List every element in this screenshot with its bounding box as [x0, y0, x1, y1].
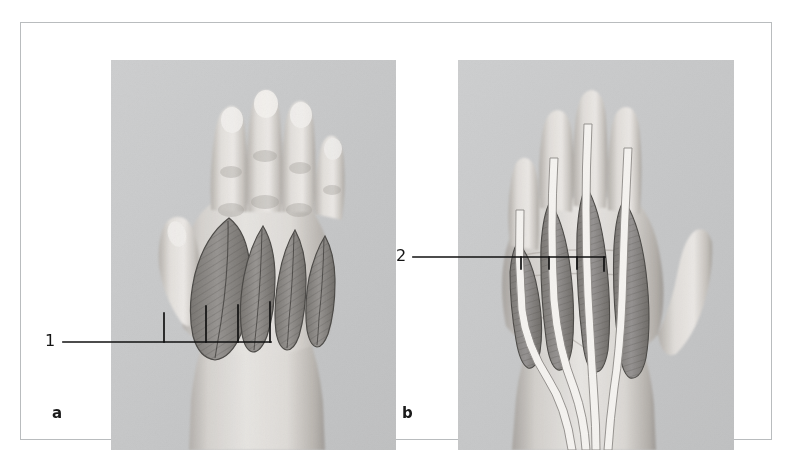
panel-b-photo	[458, 60, 734, 450]
panel-label-b: b	[402, 406, 413, 421]
panel-label-a: a	[52, 406, 62, 421]
panel-a-artwork	[111, 60, 396, 450]
figure-canvas: 1 2 a b	[0, 0, 791, 463]
figure-frame	[20, 22, 772, 440]
panel-b-artwork	[458, 60, 734, 450]
panel-a-photo	[111, 60, 396, 450]
callout-number-2: 2	[396, 248, 406, 264]
callout-number-1: 1	[45, 333, 55, 349]
